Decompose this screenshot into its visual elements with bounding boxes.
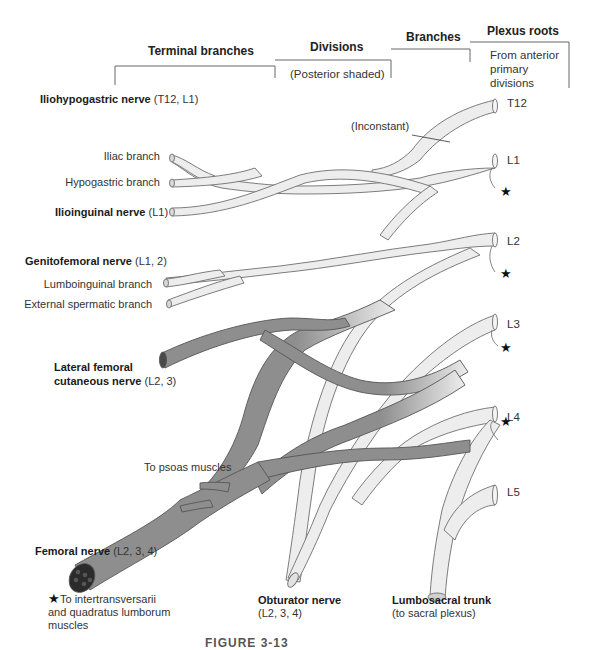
figure-caption: FIGURE 3-13 xyxy=(205,636,289,650)
femoral-nerve-trunk xyxy=(75,462,270,590)
header-plexus-roots: Plexus roots xyxy=(487,24,559,38)
external-spermatic-branch-label: External spermatic branch xyxy=(24,298,152,310)
to-psoas-muscles-label: To psoas muscles xyxy=(144,461,231,473)
obturator-nerve-label: Obturator nerve (L2, 3, 4) xyxy=(258,594,341,620)
star-icon: ★ xyxy=(500,266,512,281)
footnote: ★To intertransversarii and quadratus lum… xyxy=(48,592,170,632)
l1-l2-connection xyxy=(380,186,438,240)
genitofemoral-nerve-label: Genitofemoral nerve (L1, 2) xyxy=(25,255,167,267)
lateral-femoral-cutaneous-nerve-path xyxy=(162,318,350,368)
iliohypogastric-nerve-label: Iliohypogastric nerve (T12, L1) xyxy=(40,93,198,105)
header-plexus-roots-note: From anterior primary divisions xyxy=(490,48,559,90)
intertransversarii-rami xyxy=(490,168,498,440)
header-divisions: Divisions xyxy=(310,40,363,54)
lumboinguinal-branch-label: Lumboinguinal branch xyxy=(44,278,152,290)
anterior-divisions xyxy=(164,99,501,601)
star-icon: ★ xyxy=(500,414,512,429)
inconstant-label: (Inconstant) xyxy=(351,120,409,132)
bracket-terminal-branches xyxy=(115,66,275,85)
root-label-l1: L1 xyxy=(507,154,520,166)
root-label-l2: L2 xyxy=(507,235,520,247)
ilioinguinal-nerve-label: Ilioinguinal nerve (L1) xyxy=(55,206,168,218)
lumbosacral-trunk-label: Lumbosacral trunk (to sacral plexus) xyxy=(392,594,491,620)
iliac-branch-label: Iliac branch xyxy=(104,150,160,162)
root-label-l5: L5 xyxy=(507,486,520,498)
star-icon: ★ xyxy=(500,184,512,199)
femoral-nerve-label: Femoral nerve (L2, 3, 4) xyxy=(35,545,157,557)
lateral-femoral-cutaneous-nerve-label: Lateral femoral cutaneous nerve (L2, 3) xyxy=(54,360,176,388)
header-branches: Branches xyxy=(406,30,461,44)
header-divisions-note: (Posterior shaded) xyxy=(290,67,385,81)
header-terminal-branches: Terminal branches xyxy=(148,44,254,58)
hypogastric-branch-label: Hypogastric branch xyxy=(65,176,160,188)
root-label-l3: L3 xyxy=(507,318,520,330)
root-label-t12: T12 xyxy=(507,97,527,109)
star-icon: ★ xyxy=(500,340,512,355)
bracket-branches xyxy=(391,49,470,62)
star-icon: ★ xyxy=(48,591,60,606)
